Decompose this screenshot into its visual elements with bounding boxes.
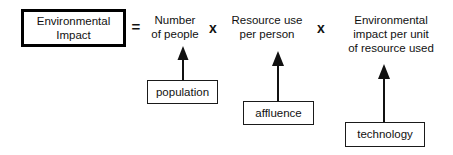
ipat-equation-diagram: Environmental Impact = x x Number of peo… [0,0,453,155]
label-population-text: population [156,86,209,99]
factor-environmental-impact-per-unit: Environmental impact per unit of resourc… [330,13,452,55]
multiply-sign-1: x [206,21,220,35]
arrow-technology-up-icon [371,61,397,125]
label-technology-text: technology [357,128,413,141]
factor-resource-use-per-person: Resource use per person [222,13,312,41]
factor-number-of-people: Number of people [144,13,206,41]
label-box-technology: technology [345,122,425,147]
label-affluence-text: affluence [255,107,301,120]
factor-3-line-1: Environmental [330,13,452,27]
arrow-affluence-up-icon [265,48,291,105]
environmental-impact-box: Environmental Impact [21,9,126,47]
factor-1-line-2: of people [144,27,206,41]
factor-3-line-2: impact per unit [330,27,452,41]
multiply-sign-2: x [314,21,328,35]
factor-2-line-2: per person [222,27,312,41]
environmental-impact-line-1: Environmental [37,14,111,28]
label-box-affluence: affluence [243,101,314,125]
factor-3-line-3: of resource used [330,41,452,55]
label-box-population: population [147,80,218,104]
factor-2-line-1: Resource use [222,13,312,27]
factor-1-line-1: Number [144,13,206,27]
environmental-impact-line-2: Impact [56,28,91,42]
arrow-population-up-icon [170,44,196,84]
equals-sign: = [129,20,143,34]
